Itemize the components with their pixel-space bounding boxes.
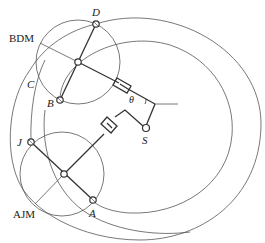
joint-s [143,125,150,132]
label-theta: θ [129,95,134,105]
joint-bdm [75,59,81,65]
label-a: A [89,208,96,219]
link-bdm-telescope [78,62,119,83]
link-pivot-s [146,104,155,126]
label-c: C [27,79,34,90]
theta-angle-arc [145,99,146,104]
diagram-drawing [0,0,265,243]
lower-path-curve [31,60,45,142]
joint-ajm [61,171,67,177]
label-d: D [92,7,100,18]
label-bdm: BDM [9,33,34,44]
outer-path-curve [10,18,261,240]
label-s: S [142,135,148,146]
label-j: J [17,137,22,148]
label-ajm: AJM [13,209,35,220]
label-b: B [47,98,54,109]
ajm-cross-line [35,174,64,204]
mechanism-diagram: D BDM C B θ S J AJM A [0,0,265,243]
bdm-cross-line [40,43,78,62]
link-s-zigzag [115,110,143,126]
link-telescope-ajm [64,134,104,174]
